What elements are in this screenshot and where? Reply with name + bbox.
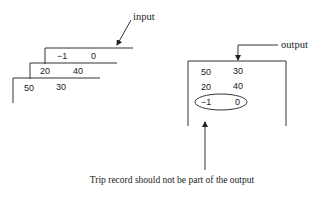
output-box: 50 30 20 40 −1 0 [188, 61, 286, 126]
output-row-1-b: 40 [233, 81, 243, 91]
output-label: output [281, 39, 308, 50]
output-row-1-a: 20 [201, 82, 211, 92]
input-record-1: 50 30 [13, 78, 100, 103]
input-stack: −1 0 20 40 50 30 [13, 48, 133, 103]
input-record-1-b: 40 [73, 66, 83, 76]
input-record-2-a: 50 [24, 83, 34, 93]
input-record-2: 20 40 [30, 63, 117, 79]
input-arrow-icon [117, 20, 131, 45]
input-record-0-b: 0 [91, 51, 96, 61]
output-arrow-icon [238, 45, 278, 60]
output-row-2-b: 0 [235, 97, 240, 107]
input-label: input [133, 11, 155, 22]
output-row-2-a: −1 [201, 97, 211, 107]
output-row-0-b: 30 [233, 66, 243, 76]
input-record-1-a: 20 [40, 66, 50, 76]
input-record-trip: −1 0 [45, 48, 133, 64]
input-output-diagram: −1 0 20 40 50 30 input 50 30 20 40 −1 0 … [0, 0, 326, 207]
input-label-group: input [117, 11, 155, 45]
input-record-2-b: 30 [56, 82, 66, 92]
caption: Trip record should not be part of the ou… [90, 175, 255, 185]
output-row-0-a: 50 [201, 67, 211, 77]
output-label-group: output [238, 39, 308, 60]
input-record-0-a: −1 [57, 51, 67, 61]
